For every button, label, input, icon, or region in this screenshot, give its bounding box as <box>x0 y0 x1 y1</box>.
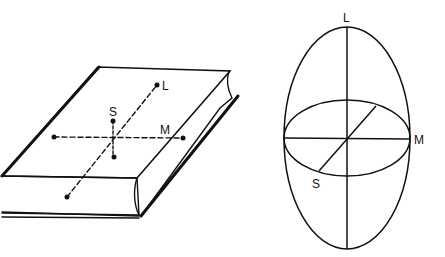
book-label-s: S <box>109 105 117 119</box>
book-page-block <box>2 176 139 215</box>
ellipsoid-label-l: L <box>343 11 350 25</box>
ellipsoid-label-s: S <box>312 177 320 191</box>
ellipsoid-label-m: M <box>414 133 424 147</box>
diagram-canvas: L M S L M S <box>0 0 445 257</box>
book-figure <box>2 67 238 218</box>
book-top-cover <box>2 67 230 178</box>
ellipsoid-figure <box>284 27 410 249</box>
book-label-m: M <box>160 123 170 137</box>
book-label-l: L <box>162 79 169 93</box>
book-bottom-cover-2 <box>2 217 139 218</box>
